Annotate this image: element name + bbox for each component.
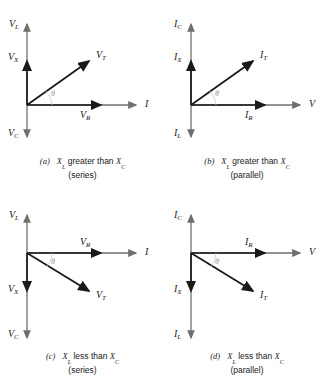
label-v-axis-d: V: [309, 247, 315, 257]
label-theta-d: θ: [215, 258, 219, 266]
caption-tag-a: (a): [40, 156, 50, 166]
phasor-resultant-a: [27, 61, 89, 105]
caption-tag-d: (d): [210, 351, 220, 361]
label-theta-c: θ: [51, 258, 55, 266]
phasor-panel-a: VL VX VC I VT VR θ (a) XL greater than X…: [0, 0, 165, 196]
label-vl-c: VL: [9, 210, 19, 220]
caption-tag-b: (b): [204, 156, 214, 166]
label-vr-c: VR: [80, 237, 90, 247]
caption-tag-c: (c): [46, 351, 55, 361]
caption-b: (b) XL greater than XC (parallel): [165, 155, 329, 182]
label-it-d: IT: [260, 290, 267, 300]
label-vl-a: VL: [9, 19, 19, 29]
phasor-panel-b: IC IX IL V IT IR θ (b) XL greater than X…: [165, 0, 329, 196]
label-ix-d: IX: [174, 284, 182, 294]
caption-sub-d: (parallel): [165, 364, 329, 376]
label-vc-a: VC: [8, 128, 19, 138]
caption-d: (d) XL less than XC (parallel): [165, 350, 329, 377]
label-ic-d: IC: [174, 210, 182, 220]
label-v-axis-b: V: [309, 99, 315, 109]
phasor-resultant-b: [191, 61, 253, 105]
caption-sub-c: (series): [0, 364, 165, 376]
label-ir-b: IR: [245, 110, 253, 120]
label-ir-d: IR: [245, 237, 253, 247]
label-il-b: IL: [174, 128, 181, 138]
label-i-axis-c: I: [145, 247, 148, 257]
label-i-axis-a: I: [145, 99, 148, 109]
label-ic-b: IC: [174, 19, 182, 29]
caption-sub-a: (series): [0, 169, 165, 181]
label-vc-c: VC: [8, 329, 19, 339]
phasor-panel-d: IC IX IL V IT IR θ (d) XL less than XC (…: [165, 196, 329, 391]
label-theta-a: θ: [51, 90, 55, 98]
label-vr-a: VR: [80, 110, 90, 120]
label-theta-b: θ: [215, 90, 219, 98]
label-it-b: IT: [260, 50, 267, 60]
phasor-resultant-d: [191, 253, 253, 291]
label-il-d: IL: [174, 329, 181, 339]
label-vx-c: VX: [8, 284, 18, 294]
caption-a: (a) XL greater than XC (series): [0, 155, 165, 182]
phasor-diagram-grid: VL VX VC I VT VR θ (a) XL greater than X…: [0, 0, 329, 391]
caption-sub-b: (parallel): [165, 169, 329, 181]
label-vt-a: VT: [96, 50, 106, 60]
label-vx-a: VX: [8, 52, 18, 62]
label-vt-c: VT: [96, 290, 106, 300]
caption-c: (c) XL less than XC (series): [0, 350, 165, 377]
phasor-panel-c: VL VX VC I VT VR θ (c) XL less than XC (…: [0, 196, 165, 391]
label-ix-b: IX: [174, 52, 182, 62]
phasor-resultant-c: [27, 253, 89, 291]
